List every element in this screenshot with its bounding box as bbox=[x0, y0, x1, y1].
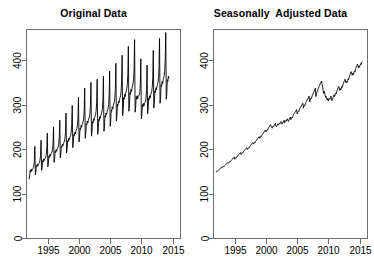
seasonally-adjusted-series-seasonally-adjusted bbox=[216, 62, 362, 172]
original-xtick-label: 1995 bbox=[37, 245, 60, 256]
original-ytick-label: 100 bbox=[13, 185, 24, 202]
original-ytick-label: 0 bbox=[13, 235, 24, 241]
seasonally-adjusted-xtick-label: 1995 bbox=[224, 245, 247, 256]
seasonally-adjusted-xtick-label: 2010 bbox=[317, 245, 340, 256]
seasonally-adjusted-ytick-label: 400 bbox=[200, 52, 211, 69]
seasonally-adjusted-ytick-label: 0 bbox=[200, 235, 211, 241]
original-xtick-label: 2010 bbox=[130, 245, 153, 256]
figure-container: Original Data 01002003004001995200020052… bbox=[0, 0, 374, 274]
original-ytick-label: 300 bbox=[13, 96, 24, 113]
original-series-original bbox=[29, 33, 169, 179]
seasonally-adjusted-xtick-label: 2000 bbox=[255, 245, 278, 256]
original-ytick-label: 200 bbox=[13, 141, 24, 158]
seasonally-adjusted-xtick-label: 2005 bbox=[286, 245, 309, 256]
original-ytick-label: 400 bbox=[13, 52, 24, 69]
original-xtick-label: 2015 bbox=[162, 245, 185, 256]
original-plot-frame bbox=[27, 30, 181, 239]
original-xtick-label: 2000 bbox=[68, 245, 91, 256]
plot-seasonally-adjusted-data: 010020030040019952000200520102015 bbox=[187, 0, 374, 274]
panel-seasonally-adjusted-data: Seasonally Adjusted Data 010020030040019… bbox=[187, 0, 374, 274]
seasonally-adjusted-xtick-label: 2015 bbox=[349, 245, 372, 256]
seasonally-adjusted-plot-frame bbox=[214, 30, 368, 239]
plot-original-data: 010020030040019952000200520102015 bbox=[0, 0, 187, 274]
seasonally-adjusted-ytick-label: 300 bbox=[200, 96, 211, 113]
seasonally-adjusted-ytick-label: 100 bbox=[200, 185, 211, 202]
panel-original-data: Original Data 01002003004001995200020052… bbox=[0, 0, 187, 274]
original-xtick-label: 2005 bbox=[99, 245, 122, 256]
seasonally-adjusted-ytick-label: 200 bbox=[200, 141, 211, 158]
